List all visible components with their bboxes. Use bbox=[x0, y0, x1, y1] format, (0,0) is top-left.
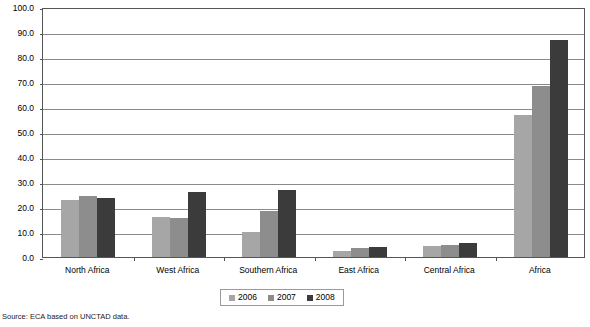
y-axis-tick-label: 0.0 bbox=[0, 254, 38, 263]
legend-swatch-icon bbox=[268, 295, 274, 301]
bar-2007-africa bbox=[532, 86, 550, 258]
x-axis-label-africa: Africa bbox=[495, 266, 586, 275]
bar-group bbox=[423, 9, 477, 257]
legend-entry-2007: 2007 bbox=[268, 293, 296, 302]
bars-layer bbox=[43, 9, 584, 257]
y-axis-tick-label: 70.0 bbox=[0, 79, 38, 88]
bar-2006-west-africa bbox=[152, 217, 170, 258]
bar-2006-east-africa bbox=[333, 251, 351, 258]
x-axis-tick-mark bbox=[224, 257, 225, 261]
bar-group bbox=[514, 9, 568, 257]
bar-2006-north-africa bbox=[61, 200, 79, 258]
bar-group bbox=[242, 9, 296, 257]
legend-entry-2008: 2008 bbox=[307, 293, 335, 302]
x-axis-label-north-africa: North Africa bbox=[42, 266, 133, 275]
y-axis-tick-label: 10.0 bbox=[0, 229, 38, 238]
y-axis-tick-label: 60.0 bbox=[0, 104, 38, 113]
legend-entry-2006: 2006 bbox=[229, 293, 257, 302]
bar-group bbox=[152, 9, 206, 257]
legend-swatch-icon bbox=[229, 295, 235, 301]
x-axis-tick-mark bbox=[315, 257, 316, 261]
x-axis-tick-mark bbox=[405, 257, 406, 261]
y-axis-tick-label: 50.0 bbox=[0, 129, 38, 138]
bar-2007-southern-africa bbox=[260, 211, 278, 258]
y-axis-tick-label: 100.0 bbox=[0, 4, 38, 13]
x-axis-label-east-africa: East Africa bbox=[314, 266, 405, 275]
bar-2007-central-africa bbox=[441, 245, 459, 258]
x-axis-label-west-africa: West Africa bbox=[133, 266, 224, 275]
bar-2007-east-africa bbox=[351, 248, 369, 257]
y-axis-tick-label: 80.0 bbox=[0, 54, 38, 63]
x-axis-label-southern-africa: Southern Africa bbox=[223, 266, 314, 275]
bar-2008-southern-africa bbox=[278, 190, 296, 258]
bar-2008-west-africa bbox=[188, 192, 206, 257]
y-axis-tick-label: 30.0 bbox=[0, 179, 38, 188]
y-axis-tick-label: 90.0 bbox=[0, 29, 38, 38]
legend-swatch-icon bbox=[307, 295, 313, 301]
bar-chart-figure: 0.010.020.030.040.050.060.070.080.090.01… bbox=[0, 0, 590, 327]
y-axis-tick-label: 40.0 bbox=[0, 154, 38, 163]
source-note: Source: ECA based on UNCTAD data. bbox=[2, 313, 129, 321]
bar-2008-africa bbox=[550, 40, 568, 258]
x-axis-tick-mark bbox=[496, 257, 497, 261]
bar-2007-west-africa bbox=[170, 218, 188, 257]
plot-area bbox=[42, 8, 585, 258]
y-axis-tick-mark bbox=[40, 259, 43, 260]
x-axis-tick-mark bbox=[134, 257, 135, 261]
bar-2008-north-africa bbox=[97, 198, 115, 257]
bar-2007-north-africa bbox=[79, 196, 97, 258]
bar-group bbox=[61, 9, 115, 257]
y-axis-tick-label: 20.0 bbox=[0, 204, 38, 213]
bar-2006-central-africa bbox=[423, 246, 441, 257]
bar-2008-east-africa bbox=[369, 247, 387, 257]
bar-2008-central-africa bbox=[459, 243, 477, 258]
chart-legend: 200620072008 bbox=[220, 289, 344, 306]
bar-2006-africa bbox=[514, 115, 532, 257]
legend-label: 2007 bbox=[277, 293, 296, 302]
legend-label: 2008 bbox=[316, 293, 335, 302]
bar-group bbox=[333, 9, 387, 257]
bar-2006-southern-africa bbox=[242, 232, 260, 258]
x-axis-label-central-africa: Central Africa bbox=[404, 266, 495, 275]
legend-label: 2006 bbox=[238, 293, 257, 302]
